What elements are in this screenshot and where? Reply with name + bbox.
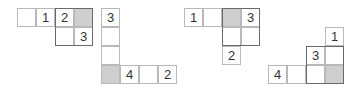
grid-cell	[101, 46, 120, 65]
grid-cell: 2	[55, 8, 74, 27]
grid-cell: 4	[268, 65, 287, 84]
grid-cell	[203, 8, 222, 27]
grid-cell: 3	[74, 27, 93, 46]
shaded-cell	[325, 65, 344, 84]
grid-cell: 1	[36, 8, 55, 27]
grid-cell: 3	[306, 46, 325, 65]
grid-cell	[55, 27, 74, 46]
shaded-cell	[101, 65, 120, 84]
grid-cell: 3	[101, 8, 120, 27]
grid-cell: 3	[241, 8, 260, 27]
grid-cell	[222, 27, 241, 46]
grid-cell	[101, 27, 120, 46]
grid-cell	[325, 46, 344, 65]
grid-cell	[139, 65, 158, 84]
grid-cell: 1	[325, 27, 344, 46]
grid-cell	[287, 65, 306, 84]
grid-cell: 4	[120, 65, 139, 84]
grid-cell: 2	[158, 65, 177, 84]
grid-cell	[306, 65, 325, 84]
grid-cell: 1	[184, 8, 203, 27]
shaded-cell	[222, 8, 241, 27]
grid-cell	[241, 27, 260, 46]
grid-cell	[17, 8, 36, 27]
shaded-cell	[74, 8, 93, 27]
grid-cell: 2	[222, 46, 241, 65]
